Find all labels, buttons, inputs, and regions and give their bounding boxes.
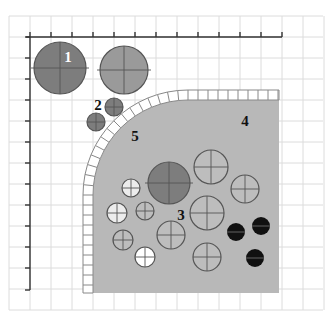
label-2: 2 [94, 97, 102, 113]
diagram-canvas: 1 2 3 4 5 [0, 0, 331, 324]
label-4: 4 [241, 113, 249, 129]
label-3: 3 [177, 207, 185, 223]
label-1: 1 [64, 49, 72, 65]
label-5: 5 [131, 128, 139, 144]
